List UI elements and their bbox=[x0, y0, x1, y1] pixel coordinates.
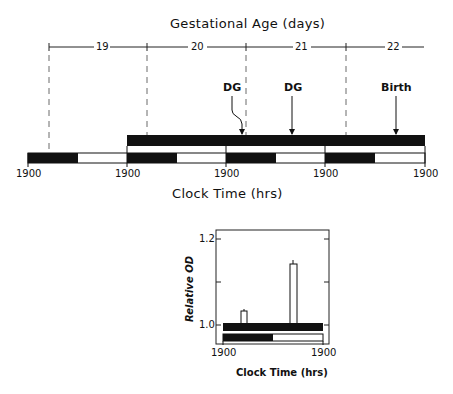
inset-x-label: Clock Time (hrs) bbox=[236, 367, 328, 378]
event-label-dg-1: DG bbox=[223, 81, 241, 94]
event-label-birth: Birth bbox=[381, 81, 412, 94]
arrow-heads bbox=[239, 129, 399, 135]
inset-x-tick-2: 1900 bbox=[311, 347, 336, 358]
clock-tick-5: 1900 bbox=[413, 168, 438, 179]
inset-y-label: Relative OD bbox=[184, 256, 195, 322]
clock-tick-2: 1900 bbox=[115, 168, 140, 179]
inset-y-tick-1-0: 1.0 bbox=[199, 319, 215, 330]
inset-x-tick-1: 1900 bbox=[211, 347, 236, 358]
event-label-dg-2: DG bbox=[284, 81, 302, 94]
inset-y-tick-1-2: 1.2 bbox=[199, 233, 215, 244]
inset-dark-bar bbox=[223, 323, 323, 331]
day-label-21: 21 bbox=[295, 41, 308, 52]
gestational-age-title: Gestational Age (days) bbox=[170, 16, 325, 31]
clock-time-label: Clock Time (hrs) bbox=[172, 186, 283, 201]
od-bars bbox=[241, 264, 297, 325]
day-label-20: 20 bbox=[191, 41, 204, 52]
continuous-dark-bar bbox=[127, 135, 425, 146]
clock-tick-1: 1900 bbox=[16, 168, 41, 179]
clock-tick-3: 1900 bbox=[214, 168, 239, 179]
day-label-19: 19 bbox=[96, 41, 109, 52]
clock-tick-4: 1900 bbox=[313, 168, 338, 179]
day-label-22: 22 bbox=[387, 41, 400, 52]
event-arrows bbox=[232, 96, 396, 134]
